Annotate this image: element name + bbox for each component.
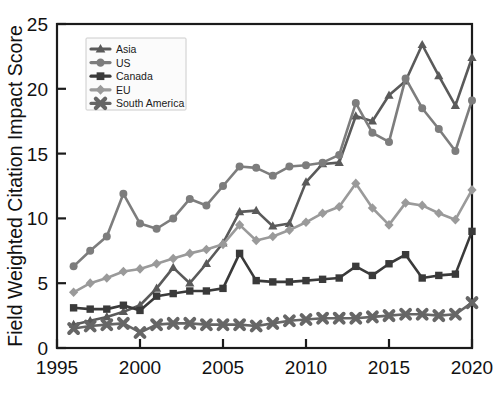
marker-circle — [418, 104, 426, 112]
marker-circle — [319, 159, 327, 167]
marker-triangle — [418, 40, 427, 48]
y-tick-label: 20 — [27, 79, 48, 100]
marker-square — [435, 272, 442, 279]
marker-square — [103, 305, 110, 312]
marker-circle — [153, 225, 161, 233]
marker-square — [253, 277, 260, 284]
y-tick-label: 15 — [27, 144, 48, 165]
x-tick-label: 2000 — [119, 357, 161, 378]
marker-circle — [236, 163, 244, 171]
marker-diamond — [185, 249, 194, 259]
y-axis-title: Field Weighted Citation Impact Score — [4, 25, 26, 347]
marker-circle — [103, 233, 111, 241]
marker-circle — [269, 172, 277, 180]
marker-circle — [468, 96, 476, 104]
citation-impact-line-chart: 0510152025199520002005201020152020Field … — [0, 0, 500, 403]
marker-square — [87, 305, 94, 312]
marker-circle — [285, 163, 293, 171]
marker-square — [269, 278, 276, 285]
y-tick-label: 10 — [27, 208, 48, 229]
marker-square — [203, 287, 210, 294]
marker-square — [369, 272, 376, 279]
marker-circle — [352, 99, 360, 107]
marker-circle — [186, 195, 194, 203]
marker-square — [468, 228, 475, 235]
y-tick-label: 0 — [37, 338, 48, 359]
marker-triangle — [467, 53, 476, 61]
marker-diamond — [119, 267, 128, 277]
marker-diamond — [202, 245, 211, 255]
marker-circle — [368, 129, 376, 137]
marker-circle — [302, 161, 310, 169]
marker-square — [402, 251, 409, 258]
marker-diamond — [318, 208, 327, 218]
marker-circle — [219, 182, 227, 190]
legend-label: Canada — [116, 70, 153, 82]
marker-circle — [451, 147, 459, 155]
marker-circle — [119, 190, 127, 198]
marker-circle — [335, 151, 343, 159]
x-tick-label: 2015 — [368, 357, 410, 378]
y-tick-label: 5 — [37, 273, 48, 294]
legend-label: US — [116, 57, 131, 69]
marker-square — [352, 263, 359, 270]
marker-circle — [402, 74, 410, 82]
marker-circle — [136, 220, 144, 228]
legend-label: Asia — [116, 43, 137, 55]
marker-square — [236, 250, 243, 257]
marker-diamond — [418, 201, 427, 211]
chart-container: 0510152025199520002005201020152020Field … — [0, 0, 500, 403]
marker-circle — [70, 262, 78, 270]
legend: AsiaUSCanadaEUSouth America — [86, 38, 186, 110]
marker-diamond — [152, 259, 161, 269]
marker-triangle — [169, 263, 178, 271]
legend-item-south-america[interactable]: South America — [91, 97, 184, 109]
marker-circle — [96, 58, 104, 66]
marker-square — [186, 287, 193, 294]
marker-square — [286, 278, 293, 285]
marker-circle — [86, 247, 94, 255]
x-tick-label: 2005 — [202, 357, 244, 378]
marker-diamond — [135, 264, 144, 274]
marker-diamond — [434, 208, 443, 218]
marker-square — [170, 290, 177, 297]
y-tick-label: 25 — [27, 14, 48, 35]
marker-square — [219, 285, 226, 292]
marker-square — [302, 277, 309, 284]
marker-circle — [385, 138, 393, 146]
marker-x — [136, 328, 145, 337]
series-south-america — [69, 298, 476, 337]
marker-square — [419, 274, 426, 281]
marker-circle — [435, 125, 443, 133]
marker-square — [452, 270, 459, 277]
marker-square — [136, 307, 143, 314]
marker-square — [153, 292, 160, 299]
marker-square — [336, 274, 343, 281]
legend-label: South America — [116, 97, 184, 109]
marker-square — [120, 302, 127, 309]
marker-square — [385, 260, 392, 267]
x-tick-label: 1995 — [36, 357, 78, 378]
legend-label: EU — [116, 84, 131, 96]
marker-circle — [169, 214, 177, 222]
marker-circle — [202, 201, 210, 209]
marker-square — [97, 72, 105, 80]
marker-square — [70, 304, 77, 311]
marker-circle — [252, 164, 260, 172]
marker-diamond — [169, 254, 178, 264]
marker-diamond — [86, 278, 95, 288]
marker-diamond — [268, 232, 277, 242]
x-tick-label: 2020 — [451, 357, 493, 378]
x-tick-label: 2010 — [285, 357, 327, 378]
marker-diamond — [102, 273, 111, 283]
marker-diamond — [69, 287, 78, 297]
marker-square — [319, 276, 326, 283]
marker-diamond — [301, 217, 310, 227]
